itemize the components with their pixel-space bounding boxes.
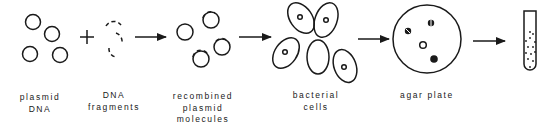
label-line: cells xyxy=(286,102,346,114)
label-line: plasmid xyxy=(168,103,238,115)
label-agar-plate: agar plate xyxy=(392,90,462,102)
label-recombined-plasmid-molecules: recombined plasmid molecules xyxy=(168,91,238,126)
cloning-diagram xyxy=(0,0,552,127)
bacterial-cell-ellipses xyxy=(267,0,361,86)
dna-fragment-arcs xyxy=(106,21,122,57)
plus-icon xyxy=(80,30,94,44)
label-dna-fragments: DNA fragments xyxy=(84,90,144,113)
plasmid-dna-circles xyxy=(23,15,68,63)
test-tube xyxy=(524,11,536,70)
label-bacterial-cells: bacterial cells xyxy=(286,90,346,113)
label-line: molecules xyxy=(168,114,238,126)
label-line: recombined xyxy=(168,91,238,103)
label-line: plasmid xyxy=(10,92,70,104)
label-line: DNA xyxy=(10,104,70,116)
recombined-plasmid-circles xyxy=(177,12,230,67)
label-line: DNA xyxy=(84,90,144,102)
label-line: bacterial xyxy=(286,90,346,102)
label-line: agar plate xyxy=(392,90,462,102)
label-line: fragments xyxy=(84,102,144,114)
label-plasmid-dna: plasmid DNA xyxy=(10,92,70,115)
agar-plate-dish xyxy=(393,5,461,73)
